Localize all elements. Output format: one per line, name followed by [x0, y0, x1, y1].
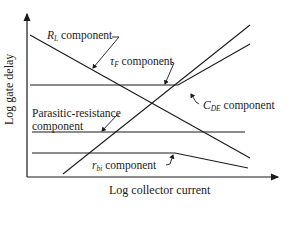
cde-component-label: CDE component	[203, 100, 275, 113]
parasitic-resistance-label: Parasitic-resistance component	[32, 107, 121, 133]
x-axis-label: Log collector current	[109, 183, 210, 198]
cde-leader	[191, 94, 199, 104]
rl-component-line	[30, 35, 250, 158]
rbi-leader	[166, 155, 173, 165]
rl-component-label: RL component	[47, 30, 112, 43]
y-axis-label: Log gate delay	[2, 54, 17, 125]
tauf-component-label: τF component	[110, 56, 173, 69]
rbi-component-label: rbi component	[92, 160, 156, 173]
